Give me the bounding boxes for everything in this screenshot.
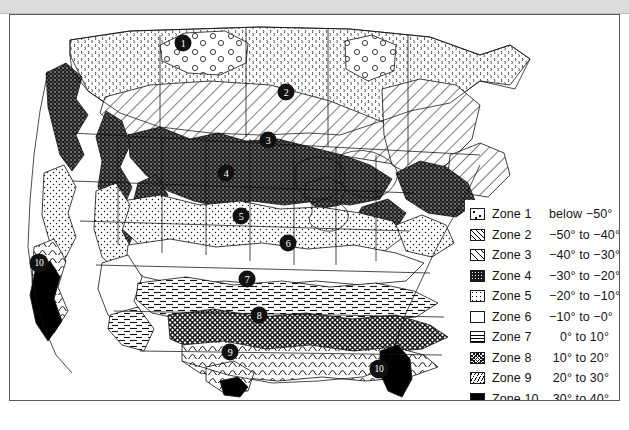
legend-temperature-range: 30° to 40° (549, 392, 615, 401)
legend-row: Zone 3−40° to −30° (470, 245, 615, 266)
zone-marker-5-central-plains: 5 (233, 208, 250, 225)
legend-row: Zone 1030° to 40° (470, 389, 615, 402)
legend-temperature-range: −10° to −0° (549, 310, 619, 324)
zone-marker-10-southern-california: 10 (30, 254, 49, 273)
zone-marker-9-south-texas: 9 (222, 344, 239, 361)
zone-2-swatch (470, 229, 485, 241)
legend-zone-label: Zone 8 (492, 351, 549, 365)
zone-marker-2-central-canada: 2 (278, 84, 295, 101)
zone-marker-8-southeast: 8 (251, 307, 268, 324)
legend-zone-label: Zone 6 (492, 310, 549, 324)
legend-row: Zone 5−20° to −10° (470, 286, 615, 307)
legend-row: Zone 810° to 20° (470, 348, 615, 369)
zone-6-swatch (470, 311, 485, 323)
legend-temperature-range: below −50° (549, 207, 618, 221)
legend-temperature-range: −40° to −30° (549, 248, 620, 262)
legend-row: Zone 70° to 10° (470, 327, 615, 348)
legend-zone-label: Zone 2 (492, 228, 549, 242)
legend-zone-label: Zone 3 (492, 248, 549, 262)
legend-temperature-range: −30° to −20° (549, 269, 620, 283)
map-figure-frame: 1234567891010 Zone 1below −50°Zone 2−50°… (9, 14, 620, 401)
legend-row: Zone 6−10° to −0° (470, 307, 615, 328)
map-legend: Zone 1below −50°Zone 2−50° to −40°Zone 3… (465, 200, 617, 401)
legend-row: Zone 920° to 30° (470, 368, 615, 389)
screenshot-root: 1234567891010 Zone 1below −50°Zone 2−50°… (0, 0, 629, 430)
legend-row: Zone 1below −50° (470, 204, 615, 225)
legend-temperature-range: −20° to −10° (549, 289, 620, 303)
legend-zone-label: Zone 10 (492, 392, 549, 401)
zone-marker-1-northern-canada: 1 (175, 35, 192, 52)
zone-marker-10-south-florida: 10 (370, 360, 389, 379)
zone-5-swatch (470, 290, 485, 302)
zone-8-swatch (470, 352, 485, 364)
zone-7-swatch (470, 331, 485, 343)
legend-temperature-range: −50° to −40° (549, 228, 620, 242)
zone-marker-3-northern-plains: 3 (260, 132, 277, 149)
zone-10-swatch (470, 393, 485, 401)
legend-temperature-range: 0° to 10° (549, 330, 615, 344)
zone-marker-4-upper-midwest: 4 (218, 165, 235, 182)
zone-marker-6-midwest: 6 (280, 235, 297, 252)
zone-1-swatch (470, 208, 485, 220)
legend-zone-label: Zone 4 (492, 269, 549, 283)
zone-3-swatch (470, 249, 485, 261)
legend-zone-label: Zone 5 (492, 289, 549, 303)
zone-4-swatch (470, 270, 485, 282)
legend-zone-label: Zone 9 (492, 371, 549, 385)
zone-marker-7-southern-plains: 7 (239, 271, 256, 288)
zone-9-swatch (470, 372, 485, 384)
legend-row: Zone 4−30° to −20° (470, 266, 615, 287)
top-gray-band (0, 0, 629, 14)
legend-zone-label: Zone 1 (492, 207, 549, 221)
legend-zone-label: Zone 7 (492, 330, 549, 344)
legend-row: Zone 2−50° to −40° (470, 225, 615, 246)
legend-temperature-range: 20° to 30° (549, 371, 615, 385)
legend-temperature-range: 10° to 20° (549, 351, 615, 365)
